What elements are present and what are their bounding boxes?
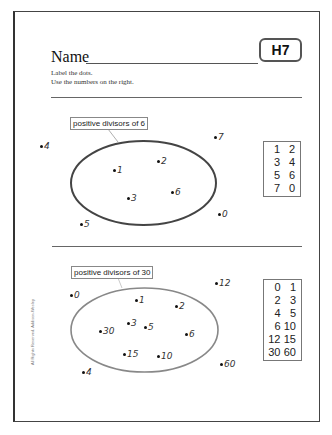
dot-point-icon [127, 197, 130, 200]
dot-label: 0 [222, 209, 228, 219]
dot-target[interactable]: 30 [99, 326, 114, 336]
label-leader-line-2 [118, 278, 122, 288]
dot-label: 3 [131, 193, 137, 203]
number-bank-value: 2 [282, 143, 297, 156]
number-bank-value: 10 [283, 320, 299, 333]
dot-label: 4 [86, 367, 92, 377]
dot-point-icon [214, 136, 217, 139]
dot-label: 2 [161, 156, 167, 166]
dot-label: 6 [175, 187, 181, 197]
dot-target[interactable]: 6 [185, 329, 195, 339]
number-bank-value: 5 [267, 169, 282, 182]
dot-target[interactable]: 6 [171, 187, 181, 197]
dot-label: 5 [84, 219, 90, 229]
number-bank-value: 3 [283, 294, 299, 307]
number-bank-value: 60 [283, 346, 299, 359]
dot-point-icon [171, 191, 174, 194]
label-leader-line-1 [108, 129, 118, 142]
copyright-credit: All Rights Reserved. Addison-Wesley [30, 299, 35, 365]
dot-target[interactable]: 7 [214, 132, 224, 142]
number-bank-2: 01234561012153060 [263, 279, 302, 361]
number-bank-value: 3 [267, 156, 282, 169]
number-bank-value: 15 [283, 333, 299, 346]
dot-label: 3 [131, 318, 137, 328]
number-bank-value: 1 [267, 143, 282, 156]
dot-label: 12 [219, 278, 230, 288]
dot-target[interactable]: 60 [220, 359, 235, 369]
dot-target[interactable]: 12 [215, 278, 230, 288]
dot-label: 4 [44, 141, 50, 151]
number-bank-value: 12 [267, 333, 283, 346]
dot-point-icon [157, 160, 160, 163]
dot-target[interactable]: 4 [40, 141, 50, 151]
number-bank-value: 7 [267, 182, 282, 195]
dot-point-icon [123, 353, 126, 356]
number-bank-value: 5 [283, 307, 299, 320]
dot-target[interactable]: 5 [144, 322, 154, 332]
dot-point-icon [220, 363, 223, 366]
number-bank-value: 30 [267, 346, 283, 359]
set-label-divisors-of-30: positive divisors of 30 [71, 266, 153, 279]
dot-point-icon [185, 333, 188, 336]
dot-label: 5 [148, 322, 154, 332]
dot-target[interactable]: 1 [113, 165, 123, 175]
dot-point-icon [135, 299, 138, 302]
dot-target[interactable]: 2 [175, 301, 185, 311]
number-bank-value: 4 [267, 307, 283, 320]
dot-point-icon [218, 213, 221, 216]
dot-target[interactable]: 10 [157, 351, 172, 361]
dot-point-icon [127, 322, 130, 325]
dot-point-icon [157, 355, 160, 358]
dot-target[interactable]: 3 [127, 318, 137, 328]
dot-point-icon [113, 169, 116, 172]
dot-target[interactable]: 0 [218, 209, 228, 219]
dot-point-icon [215, 282, 218, 285]
set-ellipse-divisors-of-6 [71, 141, 216, 225]
number-bank-value: 1 [283, 281, 299, 294]
dot-target[interactable]: 15 [123, 349, 138, 359]
dot-point-icon [99, 330, 102, 333]
dot-point-icon [80, 223, 83, 226]
dot-label: 1 [139, 295, 145, 305]
dot-target[interactable]: 1 [135, 295, 145, 305]
number-bank-value: 4 [282, 156, 297, 169]
dot-label: 6 [189, 329, 195, 339]
dot-label: 30 [103, 326, 114, 336]
dot-target[interactable]: 4 [82, 367, 92, 377]
number-bank-value: 0 [267, 281, 283, 294]
dot-label: 1 [117, 165, 123, 175]
dot-point-icon [175, 305, 178, 308]
number-bank-value: 2 [267, 294, 283, 307]
dot-point-icon [70, 294, 73, 297]
dot-label: 0 [74, 290, 80, 300]
set-label-divisors-of-6: positive divisors of 6 [70, 117, 148, 130]
dot-point-icon [144, 326, 147, 329]
dot-label: 7 [218, 132, 224, 142]
dot-label: 2 [179, 301, 185, 311]
number-bank-value: 0 [282, 182, 297, 195]
dot-target[interactable]: 2 [157, 156, 167, 166]
dot-label: 10 [161, 351, 172, 361]
dot-point-icon [40, 145, 43, 148]
dot-label: 15 [127, 349, 138, 359]
dot-target[interactable]: 3 [127, 193, 137, 203]
dot-label: 60 [224, 359, 235, 369]
number-bank-value: 6 [282, 169, 297, 182]
dot-target[interactable]: 0 [70, 290, 80, 300]
number-bank-1: 12345670 [263, 141, 301, 197]
venn-diagrams [0, 0, 332, 435]
dot-point-icon [82, 371, 85, 374]
dot-target[interactable]: 5 [80, 219, 90, 229]
number-bank-value: 6 [267, 320, 283, 333]
